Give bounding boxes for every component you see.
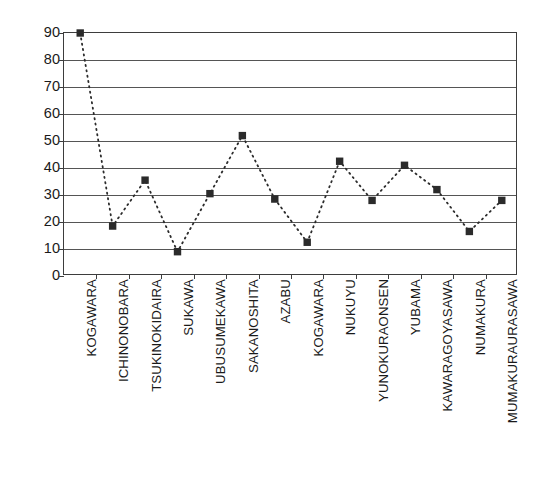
y-axis-tick-label: 50 [28,133,60,148]
x-axis-tick-label: NUKUYU [344,279,357,335]
x-axis-tick-label: YUBAMA [409,279,422,335]
y-axis-tick-labels: 9080706050403020100 [28,32,60,275]
data-point-marker [271,195,278,202]
y-axis-tick-label: 70 [28,79,60,94]
y-axis-tick-label: 20 [28,214,60,229]
x-axis-tick-label: NUMAKURA [474,279,487,355]
x-axis-tick-label: UBUSUMEKAWA [214,279,227,384]
data-series-angle [64,33,518,276]
data-point-marker [141,176,148,183]
x-axis-tick-label-text: YUNOKURAONSEN [377,279,390,402]
y-axis-tick-label: 60 [28,106,60,121]
x-axis-tick-label: MUMAKURAURASAWA [506,279,519,423]
x-axis-tick-label: AZABU [279,279,292,323]
x-axis-tick-label-text: MUMAKURAURASAWA [506,279,519,423]
y-axis-tick-label: 30 [28,187,60,202]
x-axis-tick-label: TSUKINOKIDAIRA [150,279,163,392]
x-axis-tick-label: KOGAWARA [85,279,98,357]
data-point-marker [401,162,408,169]
data-point-marker [109,222,116,229]
x-axis-tick-label-text: KAWARAGOYASAWA [441,279,454,412]
x-axis-tick-label: YUNOKURAONSEN [377,279,390,402]
x-axis-tick-label: KAWARAGOYASAWA [441,279,454,412]
x-axis-tick-label-text: AZABU [279,279,292,323]
y-axis-tick-label: 40 [28,160,60,175]
data-point-marker [498,197,505,204]
y-axis-tick-label: 10 [28,241,60,256]
x-axis-tick-label-text: SAKANOSHITA [247,279,260,373]
x-axis-tick-label-text: KOGAWARA [312,279,325,357]
x-axis-tick-label-text: ICHINONOBARA [117,279,130,382]
x-axis-tick-label: KOGAWARA [312,279,325,357]
x-axis-tick-label-text: SUKAWA [182,279,195,336]
data-point-marker [368,197,375,204]
x-axis-tick-label-text: YUBAMA [409,279,422,335]
x-axis-tick-label: SUKAWA [182,279,195,336]
data-point-marker [77,29,84,36]
data-point-marker [206,190,213,197]
x-axis-tick-label-text: NUMAKURA [474,279,487,355]
data-point-marker [239,132,246,139]
data-point-marker [304,239,311,246]
y-axis-tick-mark [59,276,64,277]
x-axis-tick-label-text: KOGAWARA [85,279,98,357]
x-axis-tick-label-text: TSUKINOKIDAIRA [150,279,163,392]
x-axis-tick-label: ICHINONOBARA [117,279,130,382]
data-point-marker [336,158,343,165]
angle-line-chart: Angle (°) 9080706050403020100 KOGAWARAIC… [0,0,544,486]
x-axis-tick-label: SAKANOSHITA [247,279,260,373]
y-axis-tick-label: 90 [28,25,60,40]
y-axis-tick-label: 80 [28,52,60,67]
data-point-marker [433,186,440,193]
x-axis-tick-labels: KOGAWARAICHINONOBARATSUKINOKIDAIRASUKAWA… [63,279,517,479]
data-point-marker [466,228,473,235]
y-axis-tick-label: 0 [28,268,60,283]
x-axis-tick-label-text: UBUSUMEKAWA [214,279,227,384]
series-line [80,33,502,252]
data-point-marker [174,248,181,255]
plot-area [63,32,517,275]
x-axis-tick-label-text: NUKUYU [344,279,357,335]
